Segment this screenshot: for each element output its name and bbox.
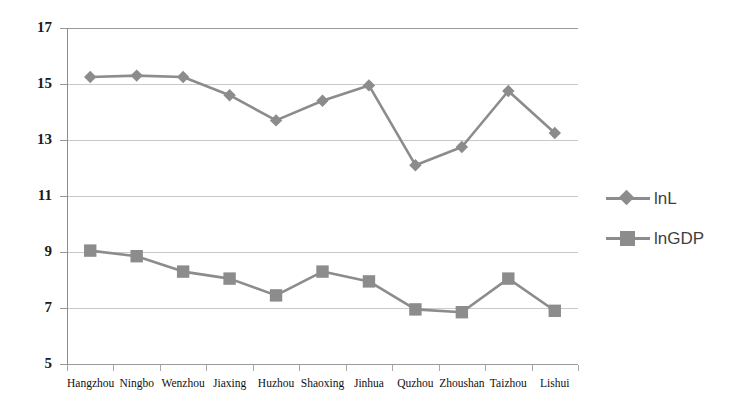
x-tick-label-huzhou: Huzhou [253, 378, 299, 390]
diamond-marker-icon [270, 114, 282, 126]
y-tick-label: 9 [18, 244, 52, 259]
line-chart: 57911131517 HangzhouNingboWenzhouJiaxing… [0, 0, 732, 418]
diamond-marker-icon [549, 127, 561, 139]
x-tick-label-ningbo: Ningbo [113, 378, 159, 390]
diamond-marker-icon [177, 71, 189, 83]
x-tick [67, 365, 68, 371]
x-tick [253, 365, 254, 371]
diamond-marker-icon [316, 95, 328, 107]
x-tick [113, 365, 114, 371]
y-tick [60, 84, 67, 85]
square-marker-icon [177, 265, 189, 277]
square-marker-icon [363, 275, 375, 287]
square-marker-icon [270, 289, 282, 301]
diamond-marker-icon [84, 71, 96, 83]
x-tick [160, 365, 161, 371]
gridline [67, 308, 578, 309]
y-tick [60, 308, 67, 309]
x-tick-label-lishui: Lishui [532, 378, 578, 390]
y-tick-label: 11 [18, 188, 52, 203]
chart-legend: lnL lnGDP [606, 178, 726, 258]
diamond-marker-icon [130, 69, 142, 81]
x-tick-label-jinhua: Jinhua [346, 378, 392, 390]
gridline [67, 196, 578, 197]
x-tick [392, 365, 393, 371]
x-tick [485, 365, 486, 371]
square-marker-icon [316, 265, 328, 277]
legend-item-lngdp[interactable]: lnGDP [606, 218, 726, 258]
square-marker-icon [549, 305, 561, 317]
y-axis-line [67, 28, 68, 365]
series-line [90, 76, 555, 166]
y-tick-label: 7 [18, 300, 52, 315]
square-marker-icon [223, 272, 235, 284]
y-tick-label: 15 [18, 76, 52, 91]
x-tick-label-taizhou: Taizhou [485, 378, 531, 390]
x-tick-label-jiaxing: Jiaxing [206, 378, 252, 390]
diamond-marker-icon [502, 85, 514, 97]
legend-label-lnl: lnL [654, 190, 677, 207]
x-tick-label-hangzhou: Hangzhou [67, 378, 113, 390]
y-tick [60, 364, 67, 365]
gridline [67, 140, 578, 141]
gridline [67, 28, 578, 29]
y-tick-label: 13 [18, 132, 52, 147]
y-tick-label: 5 [18, 356, 52, 371]
diamond-marker-icon [409, 159, 421, 171]
y-tick [60, 28, 67, 29]
gridline [67, 252, 578, 253]
diamond-marker-icon [223, 89, 235, 101]
series-line [90, 251, 555, 313]
square-marker-icon [606, 229, 650, 247]
square-marker-icon [502, 272, 514, 284]
diamond-marker-icon [363, 79, 375, 91]
legend-item-lnl[interactable]: lnL [606, 178, 726, 218]
x-tick [532, 365, 533, 371]
diamond-marker-icon [456, 141, 468, 153]
legend-label-lngdp: lnGDP [654, 230, 704, 247]
diamond-marker-icon [606, 189, 650, 207]
x-tick [346, 365, 347, 371]
y-tick-label: 17 [18, 20, 52, 35]
x-tick [439, 365, 440, 371]
x-tick-label-shaoxing: Shaoxing [299, 378, 345, 390]
y-tick [60, 196, 67, 197]
gridline [67, 364, 578, 365]
x-tick [299, 365, 300, 371]
y-tick [60, 252, 67, 253]
square-marker-icon [409, 303, 421, 315]
y-tick [60, 140, 67, 141]
x-tick-label-quzhou: Quzhou [392, 378, 438, 390]
x-tick [206, 365, 207, 371]
x-tick-label-zhoushan: Zhoushan [439, 378, 485, 390]
x-tick [578, 365, 579, 371]
gridline [67, 84, 578, 85]
square-marker-icon [84, 244, 96, 256]
x-tick-label-wenzhou: Wenzhou [160, 378, 206, 390]
